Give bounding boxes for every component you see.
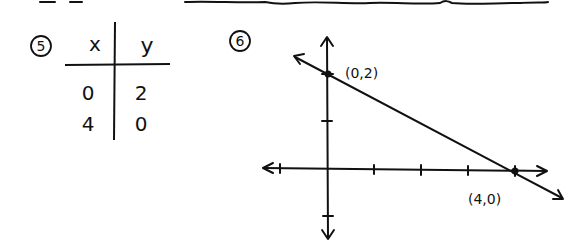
table-horizontal-rule: [65, 64, 170, 65]
header-rule: [40, 1, 548, 4]
problem-number: 6: [236, 33, 245, 49]
table-cell: 0: [82, 81, 95, 105]
point-0-2: [325, 71, 332, 78]
worksheet-canvas: 5 x y 0 2 4 0 6: [0, 0, 587, 249]
table-cell: 0: [135, 112, 148, 136]
point-label: (4,0): [468, 191, 501, 207]
table-header-y: y: [140, 33, 153, 58]
problem-5: 5 x y 0 2 4 0: [31, 22, 170, 140]
graphed-line: [295, 57, 562, 198]
problem-number: 5: [37, 38, 46, 54]
table-cell: 2: [135, 81, 148, 105]
table-cell: 4: [82, 112, 95, 136]
y-axis: [327, 38, 328, 238]
point-label: (0,2): [345, 65, 378, 81]
table-header-x: x: [89, 32, 101, 56]
problem-6: 6: [230, 31, 563, 239]
table-vertical-rule: [114, 22, 115, 140]
point-4-0: [512, 168, 519, 175]
x-axis: [264, 168, 546, 171]
